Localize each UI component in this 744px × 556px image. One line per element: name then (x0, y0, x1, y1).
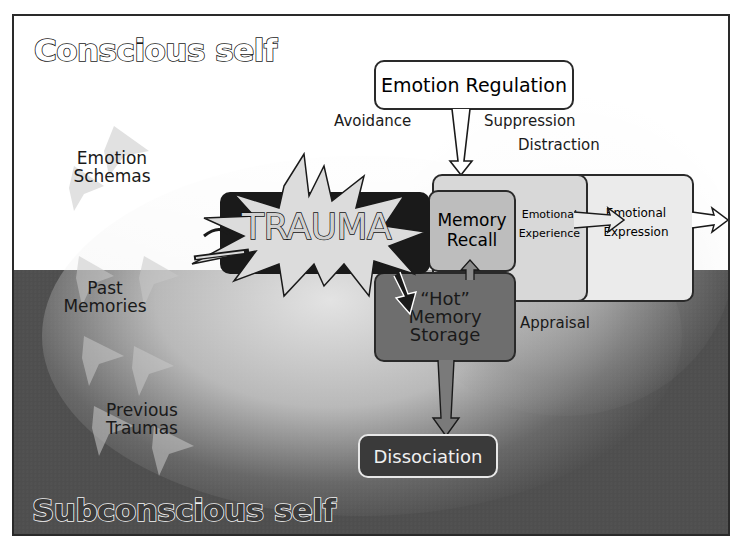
emotional-experience-line-2: Experience (519, 225, 580, 244)
subconscious-self-title: Subconscious self (32, 492, 335, 528)
avoidance-label: Avoidance (334, 114, 411, 130)
emotion-regulation-label: Emotion Regulation (381, 74, 567, 96)
hot-memory-to-recall-arrow-icon (458, 258, 482, 282)
trauma-label: TRAUMA (242, 206, 391, 247)
emotion-schemas-line-2: Schemas (62, 168, 162, 186)
emotional-experience-label: Emotional Experience (519, 206, 580, 243)
past-memories-label: Past Memories (50, 280, 160, 316)
dissociation-box: Dissociation (358, 434, 498, 478)
experience-to-expression-arrow-icon (574, 206, 634, 236)
suppression-label: Suppression (484, 114, 576, 130)
emotion-schemas-label: Emotion Schemas (62, 150, 162, 186)
hot-memory-line-3: Storage (408, 326, 481, 344)
dissociation-label: Dissociation (373, 446, 482, 467)
emotion-regulation-box: Emotion Regulation (374, 60, 574, 110)
diagram-frame: Conscious self Subconscious self Emotion… (12, 14, 730, 536)
expression-output-arrow-icon (692, 206, 730, 236)
previous-traumas-label: Previous Traumas (92, 402, 192, 438)
past-memories-line-2: Memories (50, 298, 160, 316)
hot-memory-to-dissociation-arrow-icon (428, 360, 464, 440)
emotional-experience-line-1: Emotional (519, 206, 580, 225)
appraisal-label: Appraisal (520, 316, 590, 332)
distraction-label: Distraction (518, 138, 600, 154)
previous-traumas-line-2: Traumas (92, 420, 192, 438)
conscious-self-title: Conscious self (34, 32, 277, 68)
